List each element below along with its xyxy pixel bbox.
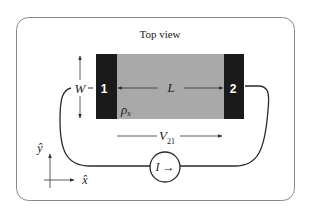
contact-1-label: 1 (101, 82, 108, 96)
voltage-label: V21 (159, 128, 175, 146)
y-axis-label: ŷ (36, 141, 43, 155)
width-label: W (75, 81, 87, 96)
diagram-title: Top view (139, 28, 180, 40)
current-label: I → (155, 160, 175, 174)
contact-2-label: 2 (230, 82, 237, 96)
length-label: L (166, 80, 174, 95)
diagram-canvas: Top view 1 2 L ρs W V21 I → ŷ x̂ (0, 0, 311, 211)
x-axis-label: x̂ (81, 173, 88, 187)
